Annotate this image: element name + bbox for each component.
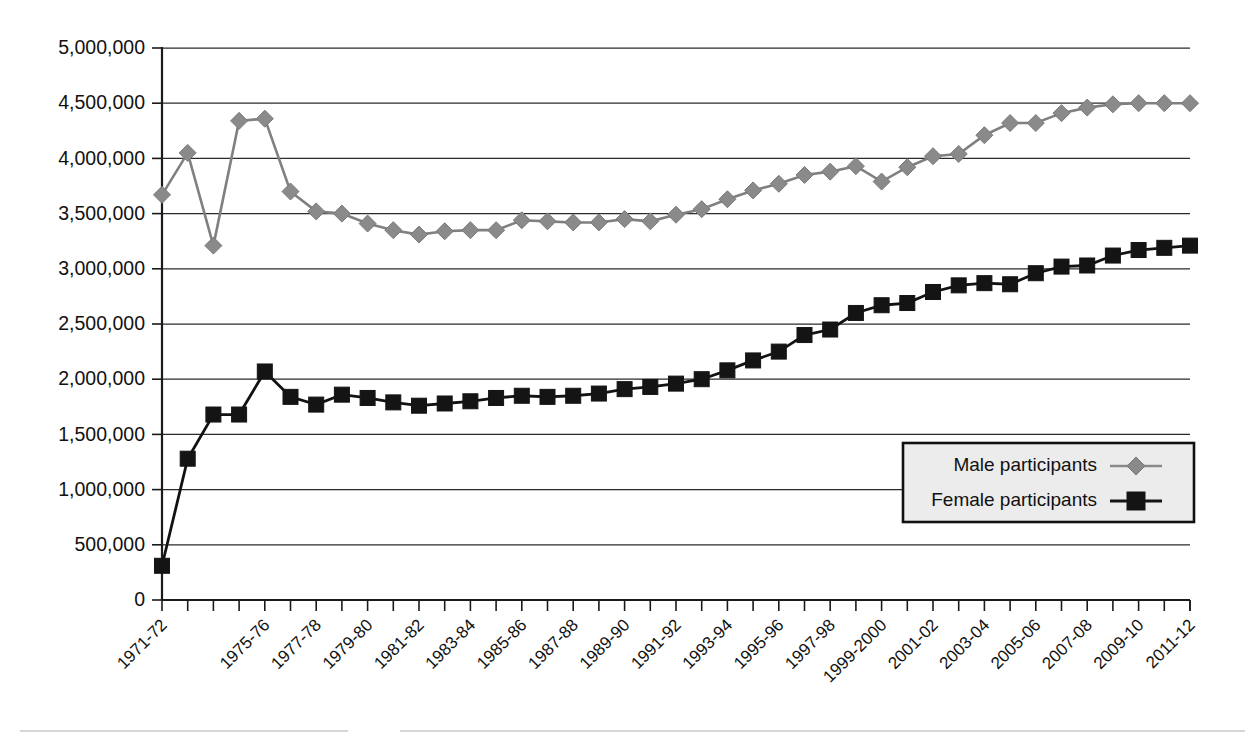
data-point-male — [513, 212, 530, 229]
data-point-male — [1156, 95, 1173, 112]
data-point-female — [257, 364, 272, 379]
x-axis-tick-label: 2001-02 — [884, 615, 942, 673]
chart-legend[interactable]: Male participantsFemale participants — [903, 443, 1194, 522]
y-axis-tick-label: 3,000,000 — [58, 257, 145, 279]
data-point-female — [874, 298, 889, 313]
y-axis-tick-label: 0 — [134, 588, 145, 610]
data-point-female — [360, 390, 375, 405]
data-point-male — [1104, 96, 1121, 113]
data-point-female — [1054, 259, 1069, 274]
data-point-male — [1182, 95, 1199, 112]
data-point-male — [359, 215, 376, 232]
data-point-male — [565, 214, 582, 231]
data-point-male — [462, 222, 479, 239]
data-point-female — [1003, 277, 1018, 292]
data-point-female — [334, 387, 349, 402]
data-point-female — [926, 284, 941, 299]
x-axis-tick-label: 2009-10 — [1090, 615, 1148, 673]
data-point-female — [823, 322, 838, 337]
data-point-female — [694, 372, 709, 387]
data-point-female — [437, 396, 452, 411]
y-axis-tick-label: 4,500,000 — [58, 91, 145, 113]
data-point-male — [693, 201, 710, 218]
data-point-female — [643, 379, 658, 394]
data-point-male — [231, 112, 248, 129]
data-point-female — [180, 451, 195, 466]
data-point-male — [205, 237, 222, 254]
data-point-female — [514, 388, 529, 403]
data-point-female — [206, 407, 221, 422]
x-axis-tick-label: 1991-92 — [627, 615, 685, 673]
y-axis-tick-label: 500,000 — [75, 533, 146, 555]
x-axis-tick-label: 2007-08 — [1038, 615, 1096, 673]
x-axis-tick-label: 1987-88 — [524, 615, 582, 673]
x-axis-tickmarks — [162, 600, 1190, 611]
x-axis-tick-label: 1995-96 — [730, 615, 788, 673]
data-point-female — [1131, 243, 1146, 258]
y-axis-tick-label: 1,500,000 — [58, 423, 145, 445]
data-point-female — [591, 386, 606, 401]
legend-label: Male participants — [953, 454, 1097, 475]
data-point-female — [771, 344, 786, 359]
y-axis-tickmarks — [152, 48, 162, 600]
data-point-male — [333, 205, 350, 222]
data-point-female — [540, 389, 555, 404]
data-point-male — [770, 175, 787, 192]
data-point-male — [1053, 105, 1070, 122]
y-axis-tick-label: 2,000,000 — [58, 367, 145, 389]
data-point-female — [617, 382, 632, 397]
data-point-male — [642, 213, 659, 230]
data-point-female — [232, 407, 247, 422]
data-point-male — [796, 166, 813, 183]
data-point-male — [411, 226, 428, 243]
x-axis-tick-label: 2003-04 — [936, 615, 994, 673]
y-axis-tick-label: 4,000,000 — [58, 147, 145, 169]
data-point-male — [256, 110, 273, 127]
y-axis-tick-label: 5,000,000 — [58, 36, 145, 58]
data-point-female — [900, 296, 915, 311]
data-point-female — [848, 305, 863, 320]
x-axis-tick-label: 1971-72 — [113, 615, 171, 673]
legend-marker-female — [1127, 492, 1145, 510]
x-axis-tick-label: 2011-12 — [1142, 615, 1199, 672]
data-point-female — [1157, 240, 1172, 255]
x-axis-tick-label: 1989-90 — [576, 615, 634, 673]
line-chart-figure: 0500,0001,000,0001,500,0002,000,0002,500… — [0, 0, 1250, 736]
chart-canvas: 0500,0001,000,0001,500,0002,000,0002,500… — [0, 0, 1250, 736]
data-point-female — [797, 328, 812, 343]
y-axis-labels: 0500,0001,000,0001,500,0002,000,0002,500… — [58, 36, 145, 610]
y-axis-tick-label: 2,500,000 — [58, 312, 145, 334]
data-point-male — [719, 191, 736, 208]
data-point-male — [1002, 115, 1019, 132]
data-point-male — [925, 148, 942, 165]
x-axis-tick-label: 1985-86 — [473, 615, 531, 673]
x-axis-tick-label: 1983-84 — [422, 615, 480, 673]
data-point-male — [488, 222, 505, 239]
data-point-male — [539, 213, 556, 230]
data-point-male — [873, 173, 890, 190]
x-axis-tick-label: 1979-80 — [319, 615, 377, 673]
data-point-female — [746, 353, 761, 368]
data-point-female — [566, 388, 581, 403]
y-axis-tick-label: 3,500,000 — [58, 202, 145, 224]
data-point-male — [745, 182, 762, 199]
data-point-female — [1105, 248, 1120, 263]
legend-label: Female participants — [931, 489, 1097, 510]
data-point-female — [1080, 258, 1095, 273]
data-point-female — [951, 278, 966, 293]
x-axis-tick-label: 1993-94 — [679, 615, 737, 673]
data-point-female — [720, 363, 735, 378]
data-point-female — [386, 395, 401, 410]
x-axis-tick-label: 1981-82 — [370, 615, 428, 673]
data-point-male — [385, 222, 402, 239]
data-point-female — [1028, 266, 1043, 281]
data-point-female — [489, 390, 504, 405]
data-point-male — [822, 163, 839, 180]
y-axis-tick-label: 1,000,000 — [58, 478, 145, 500]
x-axis-tick-label: 2005-06 — [987, 615, 1045, 673]
data-point-male — [668, 206, 685, 223]
x-axis-labels: 1971-721975-761977-781979-801981-821983-… — [113, 615, 1199, 686]
data-point-male — [1130, 95, 1147, 112]
data-point-female — [283, 389, 298, 404]
data-point-female — [155, 558, 170, 573]
